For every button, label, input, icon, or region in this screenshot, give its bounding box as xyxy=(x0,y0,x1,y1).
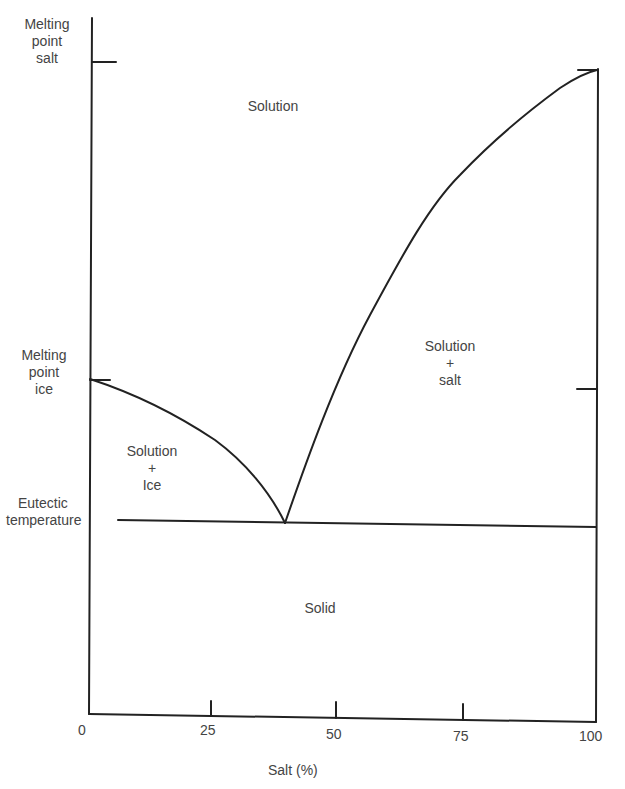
region-solid: Solid xyxy=(290,600,350,617)
label-line: point xyxy=(14,33,80,50)
x-tick-label-0: 0 xyxy=(78,722,86,738)
label-line: Melting xyxy=(8,347,80,364)
x-tick-label-100: 100 xyxy=(579,728,602,744)
label-line: point xyxy=(8,364,80,381)
label-line: salt xyxy=(408,372,492,389)
label-line: Solution xyxy=(112,443,192,460)
right-axis xyxy=(596,69,598,722)
label-line: Eutectic xyxy=(12,495,112,512)
x-tick-label-50: 50 xyxy=(326,726,342,742)
x-axis-label: Salt (%) xyxy=(268,762,318,778)
label-line: + xyxy=(408,355,492,372)
region-solution-salt: Solution + salt xyxy=(408,338,492,389)
label-eutectic-temperature: Eutectic temperature xyxy=(12,495,112,529)
label-line: Melting xyxy=(14,16,80,33)
salt-liquidus-curve xyxy=(285,70,597,523)
x-tick-label-75: 75 xyxy=(453,728,469,744)
region-solution-ice: Solution + Ice xyxy=(112,443,192,494)
x-axis xyxy=(89,714,596,722)
label-line: Solution xyxy=(408,338,492,355)
label-melting-point-ice: Melting point ice xyxy=(8,347,80,398)
x-tick-label-25: 25 xyxy=(200,722,216,738)
label-line: temperature xyxy=(6,512,112,529)
eutectic-line xyxy=(118,520,596,527)
label-line: ice xyxy=(8,381,80,398)
region-solution: Solution xyxy=(228,98,318,115)
label-line: salt xyxy=(14,50,80,67)
label-line: + xyxy=(112,460,192,477)
phase-diagram-plot xyxy=(0,0,625,789)
label-line: Ice xyxy=(112,477,192,494)
label-melting-point-salt: Melting point salt xyxy=(14,16,80,67)
left-axis xyxy=(89,18,92,714)
